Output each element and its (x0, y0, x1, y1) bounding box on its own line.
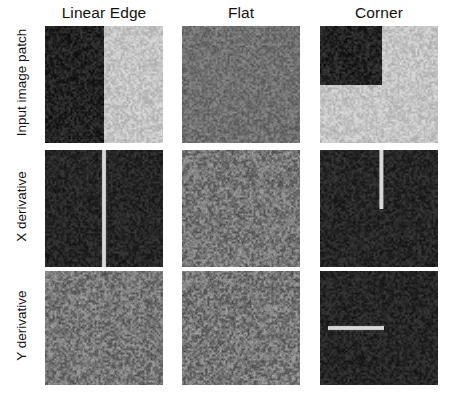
panel-xderivative-linear-edge (45, 150, 163, 267)
panel-input-corner-image (320, 26, 438, 143)
column-header-flat: Flat (182, 2, 300, 24)
figure-root: Linear EdgeFlatCorner Input image patchX… (0, 0, 461, 400)
column-header-linear-edge: Linear Edge (45, 2, 163, 24)
panel-xderivative-linear-edge-image (45, 150, 163, 267)
panel-yderivative-linear-edge (45, 271, 163, 385)
panel-yderivative-flat-image (182, 271, 300, 385)
panel-xderivative-flat-image (182, 150, 300, 267)
panel-yderivative-corner (320, 271, 438, 385)
panel-input-linear-edge-image (45, 26, 163, 143)
panel-input-linear-edge (45, 26, 163, 143)
panel-yderivative-corner-image (320, 271, 438, 385)
row-label-input: Input image patch (14, 22, 29, 142)
panel-yderivative-linear-edge-image (45, 271, 163, 385)
panel-xderivative-flat (182, 150, 300, 267)
panel-input-flat (182, 26, 300, 143)
panel-yderivative-flat (182, 271, 300, 385)
row-label-x-deriv: X derivative (14, 146, 29, 266)
panel-xderivative-corner (320, 150, 438, 267)
row-label-y-deriv: Y derivative (14, 266, 29, 386)
panel-xderivative-corner-image (320, 150, 438, 267)
panel-input-flat-image (182, 26, 300, 143)
panel-input-corner (320, 26, 438, 143)
column-header-corner: Corner (320, 2, 438, 24)
